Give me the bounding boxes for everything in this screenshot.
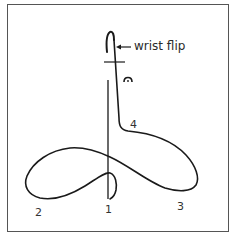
stroke-label-1: 1 bbox=[105, 204, 112, 215]
main-downstroke bbox=[26, 40, 198, 199]
left-arrow-icon bbox=[116, 45, 131, 50]
stroke-label-3: 3 bbox=[177, 201, 184, 212]
wrist-flip-hook bbox=[107, 32, 114, 52]
wrist-flip-label: wrist flip bbox=[134, 40, 185, 52]
stroke-label-4: 4 bbox=[130, 119, 137, 130]
stroke-diagram bbox=[0, 0, 234, 237]
fermata-icon bbox=[124, 78, 132, 83]
stroke-label-2: 2 bbox=[35, 207, 42, 218]
